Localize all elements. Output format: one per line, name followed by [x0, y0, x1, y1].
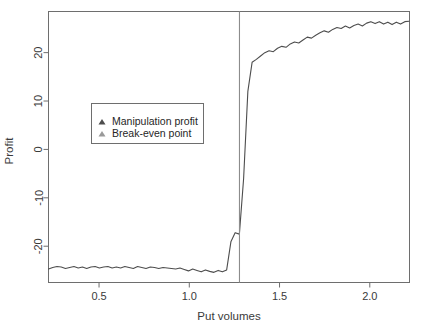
- y-tick-label: -20: [33, 238, 45, 254]
- chart-background: [0, 0, 422, 328]
- y-tick-label: 20: [33, 47, 45, 59]
- legend-label-manipulation-profit: Manipulation profit: [112, 115, 198, 127]
- legend-label-break-even-point: Break-even point: [112, 127, 191, 139]
- y-tick-label: 10: [33, 95, 45, 107]
- chart-figure: 0.51.01.52.0 -20-1001020 Put volumes Pro…: [0, 0, 422, 328]
- x-axis-title: Put volumes: [197, 310, 261, 322]
- x-tick-label: 2.0: [362, 290, 377, 302]
- y-axis-title: Profit: [3, 137, 15, 165]
- y-tick-label: 0: [33, 146, 45, 152]
- y-tick-label: -10: [33, 190, 45, 206]
- x-tick-label: 1.0: [182, 290, 197, 302]
- x-tick-label: 0.5: [91, 290, 106, 302]
- profit-vs-put-volumes-chart: 0.51.01.52.0 -20-1001020 Put volumes Pro…: [0, 0, 422, 328]
- x-tick-label: 1.5: [272, 290, 287, 302]
- chart-legend: Manipulation profit Break-even point: [92, 104, 204, 144]
